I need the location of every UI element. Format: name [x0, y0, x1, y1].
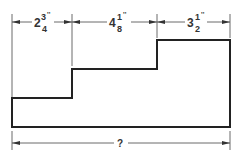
dimension-numerator: 3 [41, 12, 46, 22]
dimension-unit: '' [201, 11, 205, 18]
dimension-denominator: 8 [117, 24, 122, 34]
arrowhead [157, 20, 165, 24]
stepped-profile-drawing: 2 3 '' 4 4 1 '' 8 3 1 '' 2 ? [0, 0, 235, 163]
dimension-unit: '' [123, 11, 127, 18]
dimension-segment-3: 3 1 '' 2 [157, 11, 230, 34]
arrowhead [12, 141, 20, 145]
dimension-whole: 4 [109, 16, 116, 30]
arrowhead [222, 141, 230, 145]
dimension-numerator: 1 [117, 12, 122, 22]
dimension-segment-2: 4 1 '' 8 [72, 11, 157, 34]
total-dimension-label: ? [117, 138, 123, 149]
dimension-unit: '' [47, 11, 51, 18]
arrowhead [64, 20, 72, 24]
arrowhead [222, 20, 230, 24]
dimension-denominator: 4 [42, 24, 47, 34]
total-dimension: ? [12, 138, 230, 149]
dimension-numerator: 1 [195, 12, 200, 22]
arrowhead [149, 20, 157, 24]
arrowhead [72, 20, 80, 24]
dimension-denominator: 2 [195, 24, 200, 34]
dimension-whole: 2 [34, 16, 41, 30]
stepped-profile-outline [12, 40, 230, 127]
dimension-segment-1: 2 3 '' 4 [12, 11, 72, 34]
dimension-whole: 3 [187, 16, 194, 30]
arrowhead [12, 20, 20, 24]
